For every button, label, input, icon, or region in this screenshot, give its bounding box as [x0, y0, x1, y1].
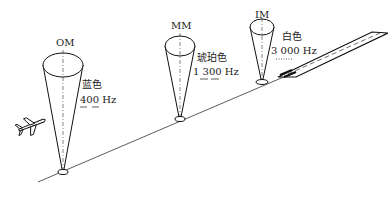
om-label: OM — [56, 37, 74, 48]
mm-color: 琥珀色 — [197, 51, 227, 63]
ground-track-line — [38, 70, 300, 182]
im-color: 白色 — [282, 30, 302, 42]
middle-marker-cone — [165, 33, 195, 122]
im-label: IM — [255, 9, 269, 20]
aircraft-icon — [14, 112, 48, 139]
om-color: 蓝色 — [82, 78, 102, 90]
im-frequency: 3 000 Hz — [271, 45, 317, 56]
mm-frequency: 1 300 Hz — [193, 66, 239, 77]
marker-beacon-diagram: OM 蓝色 400 Hz MM 琥珀色 1 300 Hz IM 白色 3 000… — [0, 0, 388, 197]
mm-label: MM — [171, 20, 191, 31]
om-frequency: 400 Hz — [80, 94, 116, 105]
outer-marker-cone — [43, 50, 83, 175]
